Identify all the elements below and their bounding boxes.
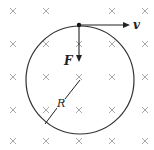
velocity-label: v: [133, 18, 141, 32]
force-arrow: [76, 25, 82, 62]
diagram-canvas: v F R: [0, 0, 154, 150]
force-label: F: [63, 54, 74, 68]
radius-label: R: [56, 97, 65, 110]
velocity-arrow: [79, 22, 130, 28]
diagram-svg: v F R: [0, 0, 154, 150]
